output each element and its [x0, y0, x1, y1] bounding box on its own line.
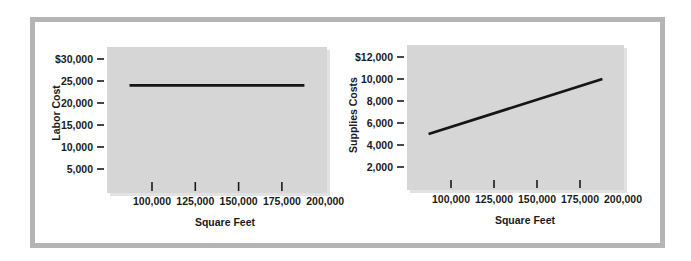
plot-area: [407, 45, 624, 190]
y-axis-title: Supplies Costs: [347, 77, 359, 153]
y-tick-label: $12,000: [355, 51, 393, 63]
y-axis: $12,00010,0008,0006,0004,0002,000: [355, 51, 404, 173]
y-tick-label: 5,000: [67, 163, 93, 175]
charts-canvas: $30,00025,00020,00015,00010,0005,000 100…: [0, 0, 691, 261]
y-tick-label: 6,000: [367, 117, 393, 129]
y-axis-title: Labor Cost: [50, 85, 62, 141]
y-tick-label: 8,000: [367, 95, 393, 107]
labor-cost-chart: $30,00025,00020,00015,00010,0005,000 100…: [50, 47, 344, 228]
x-tick-label: 150,000: [220, 195, 258, 207]
x-tick-label: 200,000: [306, 195, 344, 207]
x-tick-label: 175,000: [263, 195, 301, 207]
x-axis-title: Square Feet: [195, 216, 256, 228]
y-tick-label: 25,000: [61, 75, 93, 87]
x-tick-label: 175,000: [561, 193, 599, 205]
y-tick-label: $30,000: [55, 53, 93, 65]
y-axis: $30,00025,00020,00015,00010,0005,000: [55, 53, 104, 175]
x-axis-title: Square Feet: [495, 214, 556, 226]
x-tick-label: 100,000: [133, 195, 171, 207]
y-tick-label: 20,000: [61, 97, 93, 109]
x-tick-label: 200,000: [604, 193, 642, 205]
x-tick-label: 100,000: [432, 193, 470, 205]
plot-area: [107, 47, 327, 193]
y-tick-label: 10,000: [361, 73, 393, 85]
x-tick-label: 125,000: [176, 195, 214, 207]
x-tick-label: 125,000: [475, 193, 513, 205]
y-tick-label: 4,000: [367, 139, 393, 151]
y-tick-label: 10,000: [61, 141, 93, 153]
y-tick-label: 15,000: [61, 119, 93, 131]
x-tick-label: 150,000: [518, 193, 556, 205]
supplies-costs-chart: $12,00010,0008,0006,0004,0002,000 100,00…: [347, 45, 642, 226]
y-tick-label: 2,000: [367, 161, 393, 173]
